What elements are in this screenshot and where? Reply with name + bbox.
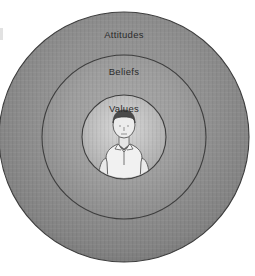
values-label: Values	[109, 103, 139, 114]
beliefs-label: Beliefs	[109, 66, 140, 77]
diagram-canvas: Attitudes Beliefs	[0, 0, 255, 276]
concentric-circles-diagram: Attitudes Beliefs	[0, 0, 255, 276]
attitudes-label: Attitudes	[104, 29, 144, 40]
scan-artifact	[0, 28, 3, 40]
